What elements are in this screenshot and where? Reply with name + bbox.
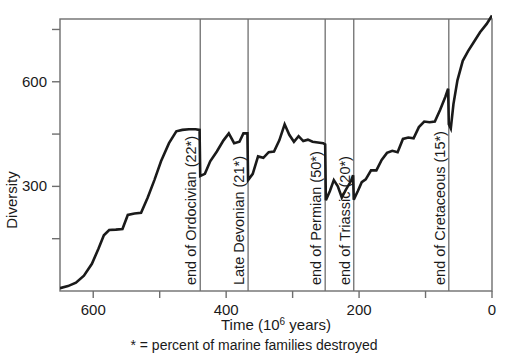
y-tick-label: 600 [22,73,47,90]
diversity-curve-group [60,16,492,289]
plot-frame [60,19,492,291]
chart-caption: * = percent of marine families destroyed [130,337,377,353]
x-tick-label: 200 [347,301,372,318]
y-tick-label: 300 [22,177,47,194]
y-axis-tick-labels: 300600 [22,73,47,195]
event-label: end of Triassic (20*) [337,156,353,285]
plot-border [60,19,492,291]
x-axis-title-tail: years) [285,316,331,333]
extinction-event-labels: end of Ordocivian (22*)Late Devonian (21… [183,131,448,285]
chart-svg: 6004002000 300600 end of Ordocivian (22*… [0,0,508,358]
y-axis-title: Diversity [3,171,20,229]
x-tick-label: 600 [81,301,106,318]
x-tick-label: 0 [488,301,496,318]
diversity-time-chart: 6004002000 300600 end of Ordocivian (22*… [0,0,508,358]
x-axis-title: Time (106 years) [221,316,331,333]
event-label: end of Cretaceous (15*) [432,131,448,285]
event-label: end of Permian (50*) [308,151,324,285]
x-axis-title-main: Time (10 [221,316,280,333]
x-axis-ticks [93,291,492,298]
event-label: end of Ordocivian (22*) [183,136,199,285]
y-axis-ticks [52,29,60,238]
event-label: Late Devonian (21*) [231,156,247,285]
diversity-curve [60,16,492,289]
